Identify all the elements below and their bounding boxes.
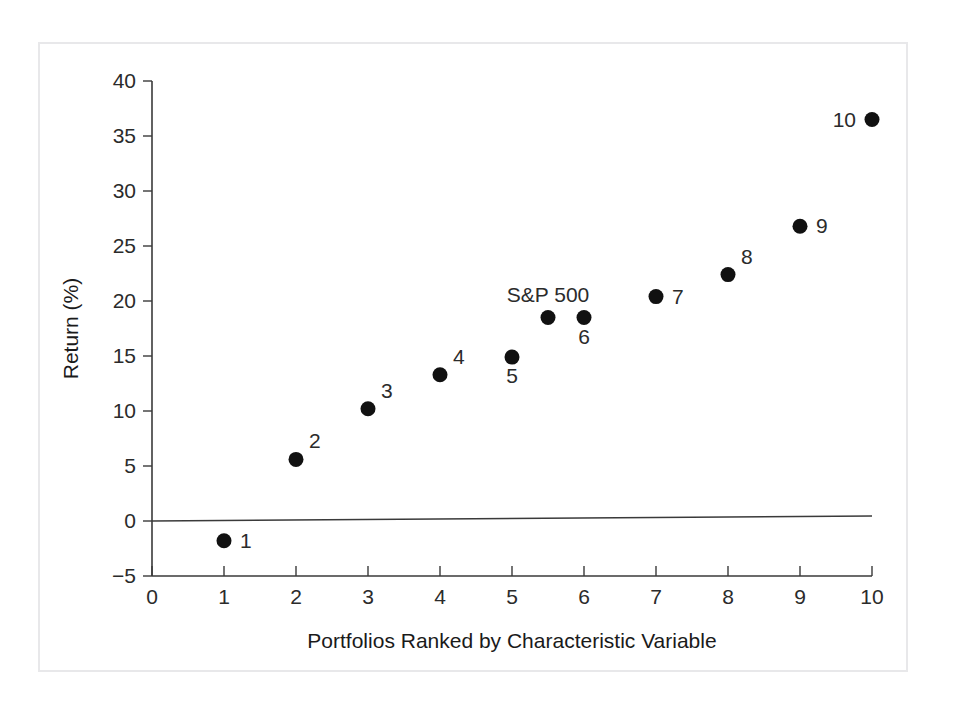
x-tick-label: 0 (146, 585, 158, 608)
y-tick-label: 20 (113, 289, 136, 312)
scatter-chart-figure: −50510152025303540012345678910 12345S&P … (0, 0, 955, 708)
data-point-marker (289, 452, 304, 467)
y-tick-label: 30 (113, 179, 136, 202)
x-tick-label: 7 (650, 585, 662, 608)
data-points-group: 12345S&P 500678910 (217, 108, 880, 552)
y-tick-label: 40 (113, 69, 136, 92)
y-tick-label: 5 (124, 454, 136, 477)
y-tick-label: 35 (113, 124, 136, 147)
data-point-marker (541, 310, 556, 325)
y-tick-label: 0 (124, 509, 136, 532)
data-point-label: 10 (833, 108, 856, 131)
data-point-label: 5 (506, 364, 518, 387)
data-point-label: 4 (453, 345, 465, 368)
data-point-marker (361, 401, 376, 416)
data-point-label: 9 (816, 214, 828, 237)
x-tick-label: 3 (362, 585, 374, 608)
x-tick-label: 1 (218, 585, 230, 608)
y-tick-label: 15 (113, 344, 136, 367)
x-tick-label: 9 (794, 585, 806, 608)
data-point-label: 7 (672, 285, 684, 308)
data-point-label: 1 (240, 529, 252, 552)
data-point-label: 3 (381, 379, 393, 402)
data-point-marker (577, 310, 592, 325)
y-tick-label: 10 (113, 399, 136, 422)
data-point-marker (721, 267, 736, 282)
x-axis-title: Portfolios Ranked by Characteristic Vari… (307, 629, 716, 652)
plot-canvas: −50510152025303540012345678910 12345S&P … (0, 0, 955, 708)
benchmark-annotation: S&P 500 (507, 283, 590, 306)
data-point-marker (217, 533, 232, 548)
data-point-label: 8 (741, 245, 753, 268)
x-tick-label: 5 (506, 585, 518, 608)
zero-reference-line (152, 516, 872, 521)
data-point-marker (793, 219, 808, 234)
y-axis-title: Return (%) (59, 278, 82, 380)
x-tick-label: 8 (722, 585, 734, 608)
x-tick-label: 4 (434, 585, 446, 608)
data-point-marker (865, 112, 880, 127)
x-tick-label: 2 (290, 585, 302, 608)
zero-line (152, 516, 872, 521)
ticks-group: −50510152025303540012345678910 (112, 69, 884, 608)
data-point-marker (433, 367, 448, 382)
y-tick-label: 25 (113, 234, 136, 257)
x-tick-label: 10 (860, 585, 883, 608)
y-tick-label: −5 (112, 564, 136, 587)
axes-group (152, 81, 872, 576)
data-point-marker (505, 350, 520, 365)
x-tick-label: 6 (578, 585, 590, 608)
data-point-label: 6 (578, 325, 590, 348)
data-point-marker (649, 289, 664, 304)
data-point-label: 2 (309, 429, 321, 452)
